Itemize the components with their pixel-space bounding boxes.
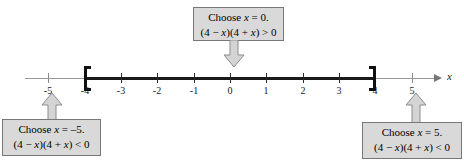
callout-right-line1: Choose x = 5. [367,125,457,140]
interval-bracket-left [84,66,91,91]
tick-1 [266,73,267,83]
tick-neg2 [157,73,158,83]
tick-label-2: 2 [293,85,313,96]
tick-neg3 [121,73,122,83]
tick-label-neg3: -3 [111,85,131,96]
tick-5 [412,73,413,83]
callout-box-left: Choose x = –5. (4 − x)(4 + x) < 0 [2,119,101,156]
tick-label-3: 3 [329,85,349,96]
axis-arrowhead-icon [434,74,442,82]
callout-top-down-arrow-icon [222,40,246,68]
tick-0 [230,73,231,83]
tick-2 [303,73,304,83]
axis-variable-label: x [447,70,452,82]
callout-left-line2: (4 − x)(4 + x) < 0 [7,137,96,152]
callout-box-top: Choose x = 0. (4 − x)(4 + x) > 0 [193,7,284,41]
callout-top-line2: (4 − x)(4 + x) > 0 [198,25,279,40]
callout-right-up-arrow-icon [404,92,428,124]
callout-top-line1: Choose x = 0. [198,10,279,25]
interval-bracket-right [369,66,376,91]
callout-right-line2: (4 − x)(4 + x) < 0 [367,140,457,155]
tick-3 [339,73,340,83]
tick-label-neg1: -1 [184,85,204,96]
callout-box-right: Choose x = 5. (4 − x)(4 + x) < 0 [362,122,462,159]
figure-canvas: -5 -4 -3 -2 -1 0 1 2 3 4 5 x Choose x = … [0,0,464,161]
tick-neg5 [48,73,49,83]
tick-label-1: 1 [256,85,276,96]
callout-left-up-arrow-icon [40,92,64,122]
tick-label-0: 0 [220,85,240,96]
tick-label-neg2: -2 [147,85,167,96]
tick-neg1 [194,73,195,83]
callout-left-line1: Choose x = –5. [7,122,96,137]
